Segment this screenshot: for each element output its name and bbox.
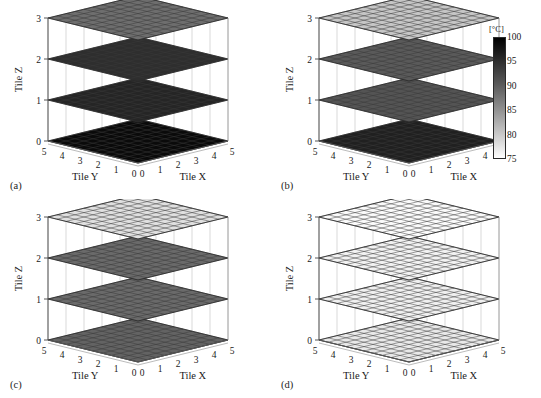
z-tick-2: 2	[307, 55, 312, 65]
z-tick-1: 1	[36, 295, 41, 305]
y-axis-label: Tile Y	[72, 171, 99, 182]
x-tick-0: 0	[140, 368, 145, 378]
panel-a-plot: 0123012345543210Tile YTile XTile Z	[0, 0, 270, 199]
y-tick-5: 5	[313, 147, 318, 157]
tile-layer-z3	[48, 199, 228, 239]
y-tick-5: 5	[42, 346, 47, 356]
x-tick-1: 1	[158, 165, 163, 175]
z-tick-0: 0	[36, 336, 41, 346]
tile-layer-z2	[48, 37, 228, 81]
z-tick-0: 0	[307, 336, 312, 346]
x-tick-0: 0	[411, 169, 416, 179]
x-tick-2: 2	[176, 160, 181, 170]
y-tick-3: 3	[78, 156, 83, 166]
z-tick-3: 3	[307, 14, 312, 24]
z-tick-2: 2	[307, 254, 312, 264]
y-tick-0: 0	[403, 169, 408, 179]
y-tick-1: 1	[114, 165, 119, 175]
x-axis-label: Tile X	[450, 370, 477, 381]
x-tick-0: 0	[140, 169, 145, 179]
colorbar-unit-label: [°C]	[489, 24, 504, 34]
y-tick-0: 0	[132, 169, 137, 179]
x-tick-3: 3	[465, 156, 470, 166]
x-tick-2: 2	[176, 359, 181, 369]
z-tick-3: 3	[307, 213, 312, 223]
z-tick-1: 1	[307, 295, 312, 305]
tile-layer-z2	[48, 236, 228, 280]
y-tick-2: 2	[367, 160, 372, 170]
x-tick-4: 4	[483, 151, 488, 161]
panel-c-plot: 0123012345543210Tile YTile XTile Z	[0, 199, 270, 398]
colorbar-tick-90: 90	[507, 81, 517, 91]
panel-d: 0123012345543210Tile YTile XTile Z (d)	[271, 199, 541, 398]
x-tick-3: 3	[194, 355, 199, 365]
z-tick-1: 1	[307, 96, 312, 106]
figure-canvas: 0123012345543210Tile YTile XTile Z (a) 0…	[0, 0, 541, 398]
y-tick-3: 3	[78, 355, 83, 365]
z-tick-3: 3	[36, 213, 41, 223]
y-tick-3: 3	[349, 156, 354, 166]
x-axis-label: Tile X	[179, 370, 206, 381]
colorbar-tick-80: 80	[507, 130, 517, 140]
y-axis-label: Tile Y	[343, 370, 370, 381]
y-tick-4: 4	[60, 151, 65, 161]
x-tick-4: 4	[212, 151, 217, 161]
tile-layer-z0	[48, 119, 228, 163]
y-tick-0: 0	[132, 368, 137, 378]
tile-layer-z1	[48, 277, 228, 321]
z-axis-label: Tile Z	[284, 266, 295, 292]
x-tick-2: 2	[447, 160, 452, 170]
tile-layer-z1	[48, 78, 228, 122]
panel-b-tag: (b)	[281, 180, 293, 191]
y-axis-label: Tile Y	[72, 370, 99, 381]
x-tick-0: 0	[411, 368, 416, 378]
tile-layer-z2	[319, 37, 499, 81]
y-tick-4: 4	[60, 350, 65, 360]
tile-layer-z3	[319, 0, 499, 40]
z-tick-0: 0	[36, 137, 41, 147]
y-tick-2: 2	[367, 359, 372, 369]
tile-layer-z2	[319, 236, 499, 280]
colorbar-tick-75: 75	[507, 154, 517, 164]
x-tick-5: 5	[230, 147, 235, 157]
y-tick-1: 1	[385, 364, 390, 374]
y-tick-2: 2	[96, 160, 101, 170]
x-tick-5: 5	[230, 346, 235, 356]
y-tick-1: 1	[385, 165, 390, 175]
x-tick-1: 1	[158, 364, 163, 374]
tile-layer-z0	[319, 318, 499, 362]
temperature-colorbar: [°C] 1009590858075	[489, 24, 539, 174]
z-tick-0: 0	[307, 137, 312, 147]
colorbar-tick-100: 100	[507, 32, 521, 42]
panel-d-plot: 0123012345543210Tile YTile XTile Z	[271, 199, 541, 398]
tile-layer-z1	[319, 78, 499, 122]
panel-c-tag: (c)	[10, 379, 22, 390]
z-axis-label: Tile Z	[284, 67, 295, 93]
x-tick-3: 3	[465, 355, 470, 365]
y-tick-4: 4	[331, 350, 336, 360]
x-axis-label: Tile X	[450, 171, 477, 182]
z-axis-label: Tile Z	[13, 67, 24, 93]
panel-c: 0123012345543210Tile YTile XTile Z (c)	[0, 199, 270, 398]
x-axis-label: Tile X	[179, 171, 206, 182]
x-tick-1: 1	[429, 165, 434, 175]
tile-layer-z3	[48, 0, 228, 40]
panel-a-tag: (a)	[10, 180, 22, 191]
tile-layer-z0	[48, 318, 228, 362]
y-tick-1: 1	[114, 364, 119, 374]
z-tick-1: 1	[36, 96, 41, 106]
x-tick-4: 4	[483, 350, 488, 360]
colorbar-gradient	[493, 37, 506, 159]
y-tick-2: 2	[96, 359, 101, 369]
x-tick-2: 2	[447, 359, 452, 369]
y-tick-3: 3	[349, 355, 354, 365]
y-tick-5: 5	[42, 147, 47, 157]
panel-a: 0123012345543210Tile YTile XTile Z (a)	[0, 0, 270, 199]
x-tick-3: 3	[194, 156, 199, 166]
z-axis-label: Tile Z	[13, 266, 24, 292]
y-tick-4: 4	[331, 151, 336, 161]
z-tick-3: 3	[36, 14, 41, 24]
y-tick-0: 0	[403, 368, 408, 378]
y-tick-5: 5	[313, 346, 318, 356]
colorbar-tick-95: 95	[507, 56, 517, 66]
